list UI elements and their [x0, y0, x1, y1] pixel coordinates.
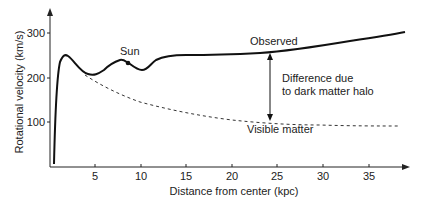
visible-matter-label: Visible matter	[247, 123, 314, 135]
y-tick-label: 100	[27, 116, 45, 128]
x-tick-label: 10	[135, 170, 147, 182]
y-axis-label: Rotational velocity (km/s)	[13, 31, 25, 154]
x-tick-label: 30	[317, 170, 329, 182]
x-tick-labels: 5 10 15 20 25 30 35	[92, 170, 375, 182]
difference-label-line1: Difference due	[282, 72, 353, 84]
y-tick-label: 200	[27, 72, 45, 84]
arrow-down-icon	[267, 114, 273, 121]
x-tick-label: 35	[363, 170, 375, 182]
difference-label-line2: to dark matter halo	[282, 85, 374, 97]
y-tick-labels: 300 200 100	[27, 27, 45, 128]
x-tick-label: 5	[92, 170, 98, 182]
observed-curve	[54, 32, 405, 164]
sun-label: Sun	[120, 45, 140, 57]
rotation-curve-chart: 300 200 100 5 10 15 20 25 30 35 Distance…	[0, 0, 426, 207]
x-tick-label: 15	[180, 170, 192, 182]
arrow-up-icon	[267, 53, 273, 60]
x-axis-arrow-icon	[402, 164, 410, 170]
observed-label: Observed	[250, 35, 298, 47]
x-axis-label: Distance from center (kpc)	[170, 185, 299, 197]
x-tick-label: 20	[226, 170, 238, 182]
x-tick-label: 25	[271, 170, 283, 182]
sun-marker-icon	[126, 61, 131, 66]
y-tick-label: 300	[27, 27, 45, 39]
y-axis-arrow-icon	[47, 8, 53, 16]
